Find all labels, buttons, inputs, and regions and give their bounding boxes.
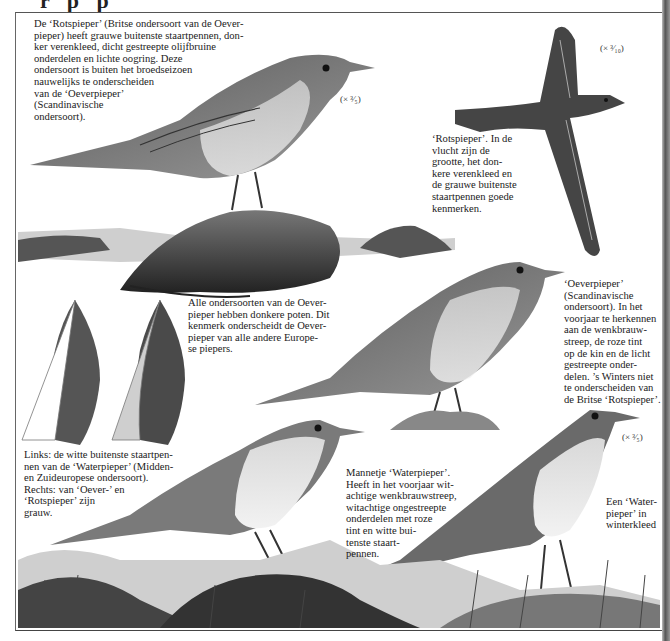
coastal-rocks-scene <box>18 210 455 297</box>
caption-tail-feathers: Links: de witte buitenste staartpen- nen… <box>24 449 173 519</box>
scale-label-winter: (× ³⁄₅) <box>622 432 643 442</box>
caption-oeverpieper: ‘Oeverpieper’ (Scandinavische ondersoort… <box>564 278 661 406</box>
caption-waterpieper-winter: Een ‘Water- pieper’ in winterkleed <box>606 496 657 531</box>
scale-label-flight: (× ³⁄₁₀) <box>600 43 624 53</box>
scale-label-perched: (× ³⁄₅) <box>340 94 361 104</box>
caption-rotspieper-intro: De ‘Rotspieper’ (Britse ondersoort van d… <box>34 18 243 122</box>
caption-rotspieper-flight: ‘Rotspieper’. In de vlucht zijn de groot… <box>432 133 517 214</box>
tail-feathers-comparison <box>22 300 185 445</box>
caption-legs-note: Alle ondersoorten van de Oever- pieper h… <box>188 297 330 355</box>
caption-waterpieper-male: Mannetje ‘Waterpieper’. Heeft in het voo… <box>346 467 457 560</box>
